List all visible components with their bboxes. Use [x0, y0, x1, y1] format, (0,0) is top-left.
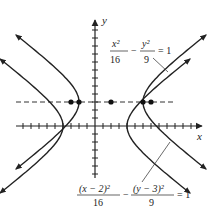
x-axis: x: [16, 123, 202, 142]
hyperbola-diagram: x y x² 16 − y² 9 = 1 (x − 2)² 16 − (y − …: [0, 0, 220, 213]
focus-point: [148, 99, 153, 104]
eq2-num1: (x − 2)²: [79, 183, 111, 195]
eq1-num2: y²: [141, 38, 150, 49]
eq1-rhs: = 1: [158, 45, 171, 56]
eq2-num2: (y − 3)²: [133, 183, 165, 195]
x-axis-label: x: [196, 130, 202, 142]
equation-label-bottom: (x − 2)² 16 − (y − 3)² 9 = 1: [77, 183, 190, 208]
focus-point: [68, 99, 73, 104]
eq1-minus: −: [131, 45, 137, 56]
eq1-den2: 9: [144, 54, 149, 65]
center-point: [108, 99, 113, 104]
eq2-rhs: = 1: [177, 189, 190, 200]
eq2-minus: −: [123, 189, 129, 200]
eq2-den2: 9: [149, 197, 154, 208]
vertex-point: [76, 99, 81, 104]
equation-label-top: x² 16 − y² 9 = 1: [110, 38, 171, 65]
y-axis: y: [92, 14, 107, 178]
eq1-den1: 16: [110, 54, 120, 65]
leader-line-bottom: [142, 142, 170, 182]
eq2-den1: 16: [93, 197, 103, 208]
leader-line-top: [153, 58, 168, 72]
y-axis-label: y: [101, 14, 107, 26]
vertex-point: [140, 99, 145, 104]
eq1-num1: x²: [111, 38, 120, 49]
